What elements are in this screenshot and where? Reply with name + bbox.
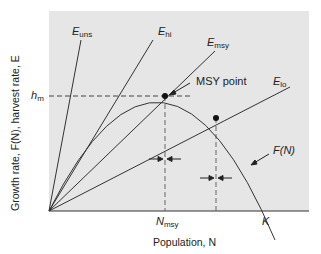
label-k: K [262, 215, 270, 227]
label-msy-point: MSY point [196, 75, 247, 87]
x-axis-label: Population, N [153, 236, 216, 248]
label-nmsy: Nmsy [156, 215, 179, 229]
label-fn: F(N) [273, 144, 295, 156]
y-axis-label: Growth rate, F(N), harvest rate, E [9, 55, 21, 211]
label-hm: hm [31, 89, 44, 103]
msy-diagram: Euns Ehi Emsy Elo MSY point F(N) hm Nmsy… [0, 0, 321, 254]
plot-area [49, 11, 309, 211]
msy-point [162, 93, 168, 99]
elo-point [213, 115, 219, 121]
